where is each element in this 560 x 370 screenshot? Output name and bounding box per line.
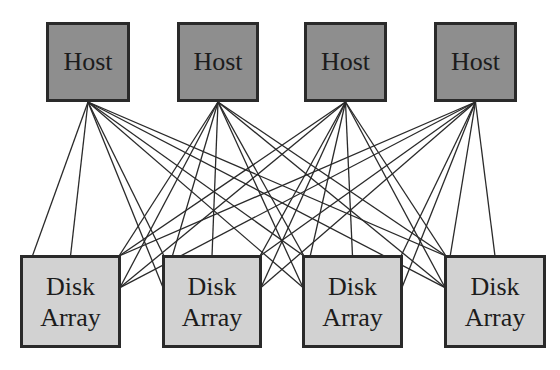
disk-array-label: Disk Array: [182, 271, 243, 333]
disk-array-box-4: Disk Array: [444, 255, 546, 348]
disk-array-box-1: Disk Array: [20, 255, 121, 348]
host-label: Host: [451, 48, 500, 76]
host-label: Host: [321, 48, 370, 76]
disk-array-box-3: Disk Array: [302, 255, 403, 348]
host-label: Host: [193, 48, 242, 76]
disk-array-label: Disk Array: [40, 271, 101, 333]
host-box-4: Host: [434, 22, 517, 102]
host-box-1: Host: [46, 22, 130, 102]
host-box-3: Host: [304, 22, 387, 102]
disk-array-box-2: Disk Array: [162, 255, 262, 348]
host-label: Host: [63, 48, 112, 76]
disk-array-label: Disk Array: [322, 271, 383, 333]
host-box-2: Host: [177, 22, 259, 102]
disk-array-label: Disk Array: [465, 271, 526, 333]
